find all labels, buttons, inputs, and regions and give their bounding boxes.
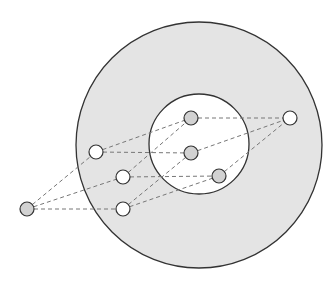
inner-region-circle xyxy=(149,94,249,194)
node-F xyxy=(184,146,198,160)
node-E xyxy=(184,111,198,125)
node-A xyxy=(20,202,34,216)
node-G xyxy=(212,169,226,183)
node-H xyxy=(283,111,297,125)
diagram-canvas xyxy=(0,0,336,286)
node-C xyxy=(116,170,130,184)
node-D xyxy=(116,202,130,216)
node-B xyxy=(89,145,103,159)
network-diagram xyxy=(0,0,336,286)
